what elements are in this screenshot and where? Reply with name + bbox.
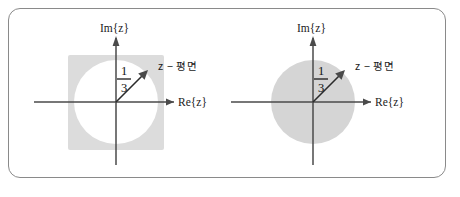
- real-axis-label: Re{z}: [375, 96, 404, 108]
- figure-root: 1 3 Im{z} Re{z} z − 평면: [0, 0, 460, 197]
- plane-label: z − 평면: [158, 60, 197, 72]
- real-axis-arrow-icon: [363, 99, 371, 106]
- interior-region-panel: 1 3 Im{z} Re{z} z − 평면: [203, 0, 423, 197]
- imaginary-axis-arrow-icon: [310, 36, 317, 46]
- plane-label: z − 평면: [355, 60, 394, 72]
- fraction-numerator: 1: [121, 64, 127, 78]
- fraction-denominator: 3: [318, 81, 324, 95]
- imaginary-axis-label: Im{z}: [100, 22, 129, 34]
- fraction-numerator: 1: [318, 64, 324, 78]
- fraction-denominator: 3: [121, 81, 127, 95]
- real-axis-arrow-icon: [166, 99, 174, 106]
- imaginary-axis-arrow-icon: [113, 36, 120, 46]
- exterior-region-panel: 1 3 Im{z} Re{z} z − 평면: [6, 0, 226, 197]
- imaginary-axis-label: Im{z}: [297, 22, 326, 34]
